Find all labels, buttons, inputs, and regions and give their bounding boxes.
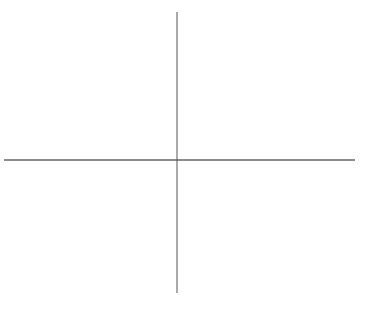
plot-canvas — [0, 0, 370, 321]
autocorrelation-diagram — [0, 0, 370, 321]
